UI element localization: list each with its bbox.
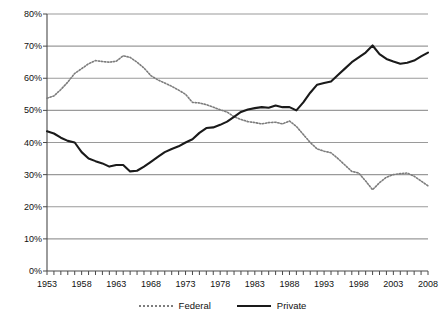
legend-label-federal: Federal [179,300,211,311]
series-line-private [47,45,428,171]
legend-label-private: Private [277,300,307,311]
x-axis-ticks [43,14,428,275]
x-axis-tick-label: 2008 [408,279,445,289]
y-axis-tick-label: 70% [4,41,42,51]
y-axis-tick-label: 60% [4,73,42,83]
y-axis-tick-label: 30% [4,170,42,180]
legend-swatch-federal-dotted-line-icon [139,302,173,310]
y-axis-tick-label: 50% [4,105,42,115]
series-line-federal [47,56,428,190]
data-series-group [47,45,428,189]
y-axis-tick-label: 20% [4,202,42,212]
y-axis-tick-label: 10% [4,234,42,244]
y-axis-tick-label: 40% [4,138,42,148]
line-chart: 0%10%20%30%40%50%60%70%80% 1953195819631… [0,0,445,331]
legend-item-federal: Federal [139,300,211,311]
legend-item-private: Private [237,300,307,311]
legend-swatch-private-solid-line-icon [237,302,271,310]
chart-legend: Federal Private [0,300,445,311]
y-axis-tick-label: 0% [4,266,42,276]
y-axis-tick-label: 80% [4,9,42,19]
